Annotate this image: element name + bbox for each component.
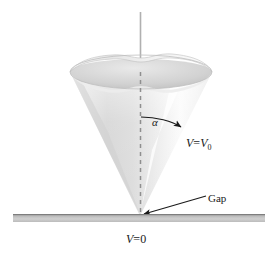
- gap-leader-line: [144, 196, 206, 214]
- plane-potential-label: V=0: [126, 233, 146, 245]
- half-angle-label: α: [152, 117, 158, 128]
- plane-potential-value: 0: [140, 232, 146, 246]
- cone-potential-subscript: 0: [207, 143, 211, 152]
- figure-canvas: [0, 0, 278, 256]
- cone-over-ground-plane-figure: α V=V0 Gap V=0: [0, 0, 278, 256]
- gap-label: Gap: [208, 193, 226, 204]
- ground-plane: [13, 214, 265, 222]
- cone-potential-label: V=V0: [186, 137, 211, 152]
